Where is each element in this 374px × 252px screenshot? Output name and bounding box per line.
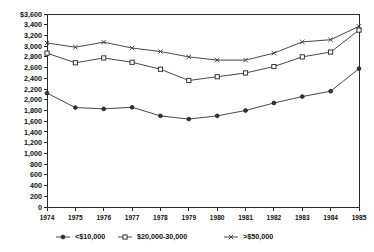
x-axis-label: 1983 [295, 214, 310, 221]
data-point [215, 75, 219, 79]
data-point [187, 117, 191, 121]
x-axis-label: 1976 [96, 214, 111, 221]
x-axis-label: 1980 [210, 214, 225, 221]
y-axis-label: 1,000 [24, 149, 42, 158]
line-chart: $3,6003,4003,2003,0002,8002,6002,4002,20… [0, 0, 374, 252]
data-point [300, 55, 304, 59]
y-axis-label: 200 [30, 192, 42, 201]
x-axis-label: 1984 [323, 214, 338, 221]
series--20-000-30-000 [45, 28, 361, 83]
x-axis-label: 1981 [238, 214, 253, 221]
legend-marker-square-icon [123, 235, 127, 239]
data-point [357, 28, 361, 32]
y-axis-label: 3,000 [24, 42, 42, 51]
data-point [244, 109, 248, 113]
x-axis-label: 1974 [40, 214, 55, 221]
data-point [243, 71, 247, 75]
y-axis-label: 400 [30, 181, 42, 190]
legend-label: $20,000-30,000 [137, 232, 187, 241]
data-point [187, 78, 191, 82]
legend-item: $20,000-30,000 [118, 232, 187, 241]
data-point [159, 114, 163, 118]
chart-legend: <$10,000$20,000-30,000>$50,000 [56, 232, 273, 241]
x-axis-tick-group: 1974197519761977197819791980198119821983… [40, 207, 367, 221]
data-point [73, 61, 77, 65]
x-axis-label: 1975 [68, 214, 83, 221]
data-point [272, 101, 276, 105]
legend-item: <$10,000 [56, 232, 105, 241]
data-point [130, 105, 134, 109]
y-axis-label: 1,400 [24, 128, 42, 137]
y-axis-label: 800 [30, 160, 42, 169]
data-point [329, 50, 333, 54]
y-axis-label: 600 [30, 170, 42, 179]
data-point [272, 64, 276, 68]
series--10-000 [45, 67, 361, 121]
x-axis-label: 1982 [267, 214, 282, 221]
legend-marker-diamond-icon [61, 235, 65, 239]
data-point [329, 89, 333, 93]
data-point [215, 114, 219, 118]
y-axis-tick-group: $3,6003,4003,2003,0002,8002,6002,4002,20… [20, 10, 47, 212]
y-axis-label: 2,400 [24, 74, 42, 83]
y-axis-label: 2,800 [24, 52, 42, 61]
y-axis-label: 1,800 [24, 106, 42, 115]
data-point [158, 67, 162, 71]
data-point [102, 107, 106, 111]
legend-item: >$50,000 [224, 232, 273, 241]
data-point [45, 91, 49, 95]
data-point [130, 60, 134, 64]
chart-canvas: $3,6003,4003,2003,0002,8002,6002,4002,20… [0, 0, 374, 252]
y-axis-label: 2,600 [24, 63, 42, 72]
legend-label: >$50,000 [243, 232, 273, 241]
y-axis-label: $3,600 [20, 10, 42, 19]
y-axis-label: 1,600 [24, 117, 42, 126]
data-point [300, 95, 304, 99]
x-axis-label: 1979 [181, 214, 196, 221]
data-point [102, 56, 106, 60]
y-axis-label: 2,000 [24, 95, 42, 104]
x-axis-label: 1977 [125, 214, 140, 221]
y-axis-label: 3,400 [24, 20, 42, 29]
x-axis-label: 1985 [352, 214, 367, 221]
series-group [45, 24, 361, 121]
y-axis-label: 3,200 [24, 31, 42, 40]
data-point [45, 51, 49, 55]
data-point [73, 106, 77, 110]
y-axis-label: 2,200 [24, 85, 42, 94]
legend-label: <$10,000 [75, 232, 105, 241]
series--50-000 [45, 24, 361, 62]
series-line [47, 69, 359, 119]
y-axis-label: 1,200 [24, 138, 42, 147]
y-axis-label: 0 [38, 203, 42, 212]
series-line [47, 30, 359, 80]
x-axis-label: 1978 [153, 214, 168, 221]
data-point [357, 67, 361, 71]
